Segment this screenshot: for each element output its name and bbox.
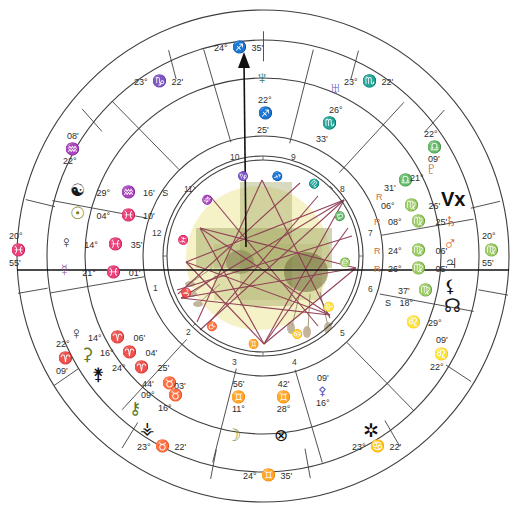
aquarius-icon: ♒ [65,143,80,155]
north-node-icon: ☊ [444,295,461,316]
pisces-icon: ♓ [121,208,136,222]
lilith-glyph: ⚸ [444,278,456,295]
cusp-11-label: 23° ♑ 22' [134,72,183,88]
planet-mars: R 24° ♍ 06' [374,241,447,257]
inner-sign-virgo: ♍ [341,257,350,268]
neptune-icon: ♆ [255,67,269,88]
cusp-3-label: 23° ♉ 22' [137,437,186,453]
virgo-icon: ♍ [418,283,433,297]
libra-icon: ♎ [427,141,442,153]
virgo-icon: ♍ [484,244,499,256]
virgo-icon: ♍ [411,243,426,257]
inner-sign-gemini: ♊ [248,340,259,349]
planet-mercury: ☿ 21° ♓ 01' [58,262,140,279]
vertex-icon: Vx [441,188,465,210]
saturn-icon: ♄ [444,210,458,231]
asc-degree: 20° ♓ 55' [9,232,26,268]
north-node-sign: ♌ [406,313,421,329]
ic-degree: 24° ♊ 35' [243,466,292,482]
pallas-icon: ⚴ [316,385,330,397]
venus-icon: ♀ [60,233,73,252]
uranus-icon: ♅ [329,79,342,98]
venus-aries-glyph: ♀ [70,325,83,342]
saturn-glyph: ♄ [444,211,458,230]
venus-icon: ♀ [70,324,83,343]
lilith-min: 37' ♍ [398,281,433,297]
pallas-marker: ✲ [363,421,379,440]
mc-degree: 24° ♐ 35' [214,38,263,54]
leo-icon: ♌ [406,315,421,329]
mars-icon: ♂ [443,233,457,254]
vesta-icon: ⚶ [140,419,154,438]
house-number-6: 6 [368,284,373,294]
uranus-glyph: ♅ [329,80,342,97]
house-number-9: 9 [291,152,296,162]
aries-icon: ♈ [58,352,73,364]
planet-part-of-fortune: 42' ♊ 28° [276,380,291,414]
planet-venus-pisces: ♀ 14° ♓ 35' [60,234,142,251]
pluto-degree: 21° [410,168,424,184]
sagittarius-icon: ♐ [232,40,247,54]
moon-icon: ☽ [226,426,241,445]
planet-north-node: 29° [428,313,442,329]
pisces-icon: ♓ [106,265,121,279]
pluto-retro: R [376,187,383,203]
natal-chart-wheel: 24° ♐ 35' 24° ♊ 35' 20° ♓ 55' 20° ♍ 55' … [0,0,526,512]
house-number-1: 1 [153,283,158,293]
pluto-glyph: ♇ [425,160,438,177]
leo-icon: ♌ [434,348,449,360]
virgo-icon: ♍ [404,198,419,212]
planet-pluto: 31' [384,178,396,194]
part-of-fortune-icon: ⊗ [274,426,288,445]
virgo-icon: ♍ [411,261,426,275]
chiron-degree: 09° [141,385,155,401]
uranus-sign: ♏ [322,114,337,130]
house-number-11: 11 [184,184,193,194]
cusp-9-label: 23° ♏ 22' [344,72,393,88]
gemini-icon: ♊ [261,468,276,482]
planet-juno: 24° ♈ 25' [112,358,169,374]
uranus-min: 33' [316,129,328,145]
mercury-icon: ☿ [58,261,71,280]
house-number-5: 5 [340,328,345,338]
planet-south-node: ☯ 29° ♒ 16' S [70,182,168,199]
vertex-glyph: Vx [441,189,465,209]
scorpio-icon: ♏ [322,116,337,130]
chiron-icon: ⚷ [129,399,141,418]
planet-sun: ☉ 04° ♓ 10' [70,205,155,222]
mars-glyph: ♂ [443,234,457,253]
chiron-glyph: ⚷ [129,400,141,417]
house-number-12: 12 [152,228,161,238]
pisces-icon: ♓ [108,237,123,251]
juno-glyph: ⚵ [92,366,104,383]
dsc-degree: 20° ♍ 55' [482,232,499,268]
capricorn-icon: ♑ [152,74,167,88]
house-number-2: 2 [186,327,191,337]
cusp-12-label: 08' ♒ 22° [63,132,80,166]
house-number-4: 4 [292,357,297,367]
sagittarius-icon: ♐ [258,106,273,120]
ceres-icon: ⚳ [81,345,93,364]
taurus-icon: ♉ [155,439,170,453]
lilith-icon: ⚸ [444,277,456,296]
aries-icon: ♈ [134,360,149,374]
house-number-10: 10 [230,152,239,162]
house-number-3: 3 [232,357,237,367]
house-number-7: 7 [368,228,373,238]
scorpio-icon: ♏ [362,74,377,88]
planet-pallas: 09' ⚴ 16° [316,374,330,408]
aquarius-icon: ♒ [121,185,136,199]
neptune-min: 25' [257,120,269,136]
fortune-glyph: ⊗ [274,427,288,444]
vesta-degree: 16° [158,398,172,414]
gemini-icon: ♊ [231,391,246,403]
virgo-icon: ♍ [411,214,426,228]
house-number-8: 8 [340,184,345,194]
planet-jupiter: R 26° ♍ 05' [374,259,447,275]
inner-sign-aries: ♈ [180,286,191,299]
pluto-icon: ♇ [425,159,438,178]
vesta-glyph: ⚶ [140,420,154,437]
cusp-2-label: 22° ♈ 09' [56,340,73,376]
moon-glyph: ☽ [226,427,241,444]
north-node-glyph: ☊ [444,296,461,315]
